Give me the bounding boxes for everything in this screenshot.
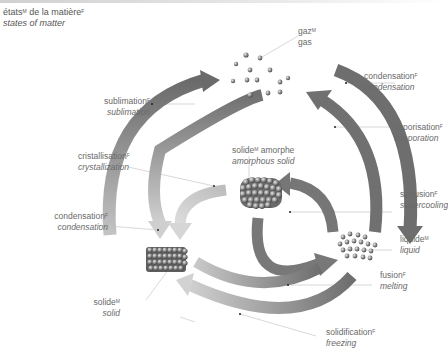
label-condensation-gas-liquid: condensationF condensation (364, 71, 418, 93)
arrow-supercooling (290, 183, 333, 232)
label-sublimation: sublimationF sublimation (80, 96, 150, 118)
label-gas: gazM gas (298, 26, 316, 48)
solid-crystal-icon (146, 247, 188, 272)
label-melting: fusionF melting (380, 270, 407, 292)
label-crystallisation: cristallisationF crystallization (78, 151, 130, 173)
label-liquid: liquideM liquid (400, 234, 429, 256)
label-vaporisation: vaporisationF evaporation (394, 122, 443, 144)
label-supercooling: surfusionF supercooling (400, 189, 448, 211)
arrow-crystallisation (180, 190, 226, 225)
amorphous-solid-icon (240, 177, 282, 209)
label-condensation-gas-solid: condensationF condensation (40, 211, 108, 233)
arrow-amorphous-to-liquid (257, 218, 318, 271)
label-amorphous-solid: solideM amorphe amorphous solid (232, 145, 294, 167)
liquid-particles-icon (338, 232, 378, 261)
label-solid: solideM solid (90, 297, 120, 319)
label-freezing: solidificationF freezing (326, 327, 375, 349)
